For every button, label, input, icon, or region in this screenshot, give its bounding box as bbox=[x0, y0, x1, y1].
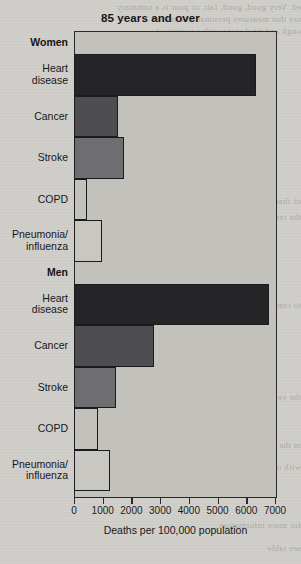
category-label-stroke: Stroke bbox=[38, 382, 74, 394]
bar-women-copd bbox=[74, 179, 87, 221]
x-axis-tick-labels: 01000200030004000500060007000 bbox=[0, 505, 301, 519]
bar-women-pneumonia-influenza bbox=[74, 220, 102, 262]
x-tick-label-6000: 6000 bbox=[235, 505, 257, 516]
category-label-heart-disease: Heartdisease bbox=[32, 293, 74, 316]
category-label-copd: COPD bbox=[38, 194, 74, 206]
x-tick-label-1000: 1000 bbox=[92, 505, 114, 516]
chart-title: 85 years and over bbox=[0, 12, 301, 24]
x-tick-7000 bbox=[275, 498, 276, 504]
x-tick-label-2000: 2000 bbox=[120, 505, 142, 516]
chart-figure: ed. Very good, good, fair, or poor is a … bbox=[0, 0, 301, 564]
bar-men-cancer bbox=[74, 325, 154, 367]
category-label-copd: COPD bbox=[38, 423, 74, 435]
bar-men-heart-disease bbox=[74, 284, 269, 326]
x-tick-label-0: 0 bbox=[71, 505, 77, 516]
x-axis-title: Deaths per 100,000 population bbox=[74, 524, 277, 536]
x-tick-label-3000: 3000 bbox=[149, 505, 171, 516]
category-label-cancer: Cancer bbox=[34, 340, 74, 352]
category-label-cancer: Cancer bbox=[34, 111, 74, 123]
bleed-text: ed. Very good, good, fair, or poor is a … bbox=[30, 2, 301, 12]
category-label-heart-disease: Heartdisease bbox=[32, 63, 74, 86]
group-label-men: Men bbox=[47, 266, 74, 278]
bar-men-stroke bbox=[74, 367, 116, 409]
bar-women-heart-disease bbox=[74, 54, 256, 96]
x-tick-0 bbox=[74, 498, 75, 504]
x-tick-1000 bbox=[103, 498, 104, 504]
x-tick-3000 bbox=[160, 498, 161, 504]
x-tick-label-5000: 5000 bbox=[206, 505, 228, 516]
bar-women-stroke bbox=[74, 137, 124, 179]
category-label-pneumonia-influenza: Pneumonia/influenza bbox=[12, 229, 74, 252]
category-label-stroke: Stroke bbox=[38, 152, 74, 164]
bleed-text: see table bbox=[10, 543, 301, 553]
x-tick-4000 bbox=[189, 498, 190, 504]
bar-women-cancer bbox=[74, 96, 118, 138]
x-tick-label-7000: 7000 bbox=[264, 505, 286, 516]
bar-men-copd bbox=[74, 408, 98, 450]
category-label-pneumonia-influenza: Pneumonia/influenza bbox=[12, 459, 74, 482]
group-label-women: Women bbox=[30, 36, 74, 48]
plot-area: WomenHeartdiseaseCancerStrokeCOPDPneumon… bbox=[74, 32, 275, 497]
x-tick-label-4000: 4000 bbox=[178, 505, 200, 516]
x-tick-2000 bbox=[131, 498, 132, 504]
bar-men-pneumonia-influenza bbox=[74, 450, 110, 492]
x-tick-5000 bbox=[218, 498, 219, 504]
x-axis-ticks bbox=[74, 498, 277, 505]
x-tick-6000 bbox=[246, 498, 247, 504]
